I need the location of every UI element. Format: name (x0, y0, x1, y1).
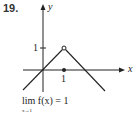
x-axis-arrow-icon (119, 68, 125, 73)
graph (0, 0, 138, 123)
limit-statement: lim f(x) = 1 (22, 95, 68, 106)
y-tick-label: 1 (33, 42, 38, 53)
x-tick-label: 1 (61, 73, 66, 84)
y-axis-label: y (48, 1, 52, 12)
filled-dot-icon (62, 68, 66, 72)
limit-subscript: x→1 (22, 108, 32, 113)
open-circle-icon (62, 46, 66, 50)
y-axis-arrow-icon (41, 4, 46, 10)
x-axis-label: x (128, 63, 132, 74)
